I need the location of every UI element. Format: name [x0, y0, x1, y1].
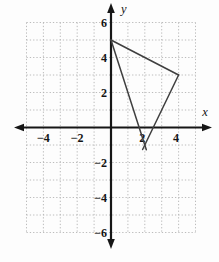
x-axis-left-arrow-icon: [14, 124, 24, 132]
x-tick-label: −2: [71, 131, 84, 145]
triangle-edge: [111, 40, 146, 150]
x-tick-label: −4: [37, 131, 50, 145]
coordinate-plane: xy−4−224642−2−4−6: [0, 0, 219, 262]
y-axis-bottom-arrow-icon: [107, 239, 115, 249]
y-tick-label: −4: [94, 191, 107, 205]
x-axis-right-arrow-icon: [202, 124, 212, 132]
y-tick-label: 6: [101, 16, 107, 30]
y-axis-label: y: [119, 2, 127, 16]
y-tick-label: 4: [101, 51, 107, 65]
x-axis-label: x: [201, 105, 208, 119]
graph-svg: xy−4−224642−2−4−6: [0, 0, 219, 262]
x-tick-label: 4: [173, 131, 179, 145]
y-tick-label: 2: [101, 86, 107, 100]
y-tick-label: −2: [94, 156, 107, 170]
y-axis-top-arrow-icon: [107, 3, 115, 13]
y-tick-label: −6: [94, 226, 107, 240]
